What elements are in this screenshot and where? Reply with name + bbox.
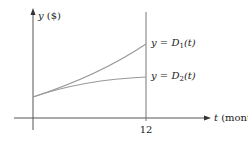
d2-label: y = D2(t) — [150, 70, 196, 83]
y-axis-arrow-icon — [31, 8, 36, 15]
d1-label: y = D1(t) — [150, 37, 196, 50]
chart: y ($) t (months) 12 y = D1(t) y = D2(t) — [0, 0, 248, 145]
x-tick-12: 12 — [140, 124, 153, 135]
d2-curve — [33, 77, 146, 97]
x-axis-arrow-icon — [204, 116, 211, 121]
y-axis-label: y ($) — [37, 10, 61, 21]
x-axis-label: t (months) — [214, 112, 248, 123]
d1-curve — [33, 44, 146, 97]
